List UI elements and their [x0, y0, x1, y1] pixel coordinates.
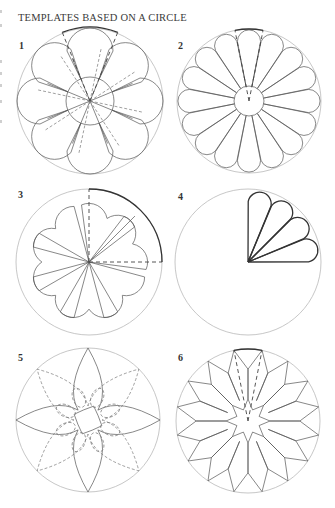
figure-6-star-kites — [176, 349, 320, 493]
figure-5-pointed-star-flower — [16, 348, 160, 492]
figure-4-quarter-fan — [175, 189, 321, 335]
figure-1-eight-petal-flower — [17, 27, 163, 174]
figure-3-heart-petal-flower — [16, 189, 162, 335]
figure-2-sixteen-petal-flower — [177, 29, 321, 173]
